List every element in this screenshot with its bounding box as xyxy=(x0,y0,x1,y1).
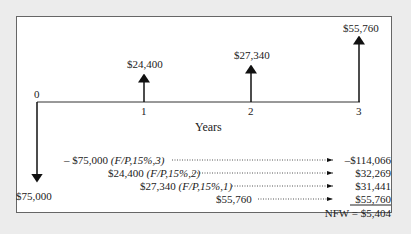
axis-label: Years xyxy=(195,121,222,133)
cash-flow-diagram xyxy=(0,0,411,234)
calc-row-2-result: $32,269 xyxy=(355,167,391,179)
period-2-label: 2 xyxy=(248,105,254,117)
calc-row-1-expr: – $75,000 (F/P,15%,3) xyxy=(64,154,164,166)
calc-row-3-expr: $27,340 (F/P,15%,1) xyxy=(140,180,232,192)
cash-flow-1-amount: $24,400 xyxy=(127,58,163,70)
calc-row-3-result: $31,441 xyxy=(355,180,391,192)
cash-flow-3-amount: $55,760 xyxy=(343,22,379,34)
calc-row-4-expr: $55,760 xyxy=(216,193,252,205)
calc-row-1-result: –$114,066 xyxy=(345,154,391,166)
total-nfw: NFW = $5,404 xyxy=(325,207,391,219)
period-1-label: 1 xyxy=(141,105,147,117)
cash-flow-0-amount: $75,000 xyxy=(16,190,52,202)
calc-row-4-result: $55,760 xyxy=(355,193,391,205)
cash-flow-2-amount: $27,340 xyxy=(234,49,270,61)
period-3-label: 3 xyxy=(356,105,362,117)
calc-row-2-expr: $24,400 (F/P,15%,2) xyxy=(108,167,200,179)
period-0-label: 0 xyxy=(34,88,40,100)
